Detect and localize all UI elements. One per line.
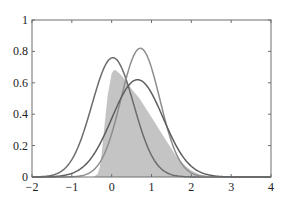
x-tick-label: 1 (149, 180, 155, 194)
y-tick-label: 0.6 (13, 76, 28, 90)
x-tick-label: 0 (109, 180, 115, 194)
y-tick-label: 0.4 (13, 107, 28, 121)
y-tick-label: 0.2 (13, 139, 28, 153)
density-chart: −2−101234 00.20.40.60.81 (0, 0, 283, 204)
y-tick-label: 0.8 (13, 44, 28, 58)
x-tick-label: −1 (65, 180, 78, 194)
y-tick-label: 1 (22, 13, 28, 27)
y-tick-label: 0 (22, 170, 28, 184)
x-tick-label: 2 (188, 180, 194, 194)
x-tick-label: 3 (228, 180, 234, 194)
x-tick-label: 4 (268, 180, 274, 194)
